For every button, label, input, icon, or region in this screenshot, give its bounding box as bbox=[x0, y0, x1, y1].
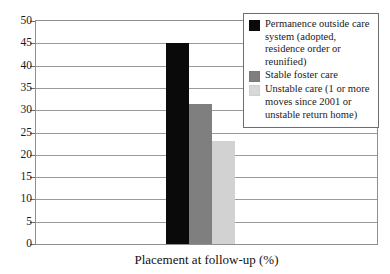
legend: Permanence outside care system (adopted,… bbox=[243, 13, 379, 128]
bar-stable-foster-care bbox=[189, 104, 212, 244]
legend-label: Unstable care (1 or more moves since 200… bbox=[265, 83, 374, 121]
y-axis-tick-label: 20 bbox=[6, 149, 32, 161]
y-axis-tick-label: 35 bbox=[6, 82, 32, 94]
y-axis-tick-label: 30 bbox=[6, 104, 32, 116]
legend-swatch-unstable-care bbox=[249, 85, 260, 96]
y-axis-tick-label: 45 bbox=[6, 37, 32, 49]
legend-swatch-stable-foster-care bbox=[249, 71, 260, 82]
y-axis-tick-label: 0 bbox=[6, 238, 32, 250]
bar-permanence bbox=[166, 43, 189, 244]
legend-item: Stable foster care bbox=[249, 69, 374, 82]
y-axis-tick-label: 25 bbox=[6, 127, 32, 139]
legend-label: Permanence outside care system (adopted,… bbox=[265, 18, 374, 68]
y-axis-tick-label: 5 bbox=[6, 216, 32, 228]
legend-item: Permanence outside care system (adopted,… bbox=[249, 18, 374, 68]
y-axis-tick-label: 10 bbox=[6, 193, 32, 205]
legend-item: Unstable care (1 or more moves since 200… bbox=[249, 83, 374, 121]
legend-swatch-permanence bbox=[249, 20, 260, 31]
legend-label: Stable foster care bbox=[265, 69, 338, 82]
chart-figure: 05101520253035404550 Permanence outside … bbox=[0, 0, 390, 274]
y-axis-tick-label: 50 bbox=[6, 15, 32, 27]
bar-unstable-care bbox=[212, 141, 235, 244]
x-axis-label: Placement at follow-up (%) bbox=[35, 252, 378, 268]
y-axis-tick-label: 40 bbox=[6, 60, 32, 72]
y-axis-tick-label: 15 bbox=[6, 171, 32, 183]
